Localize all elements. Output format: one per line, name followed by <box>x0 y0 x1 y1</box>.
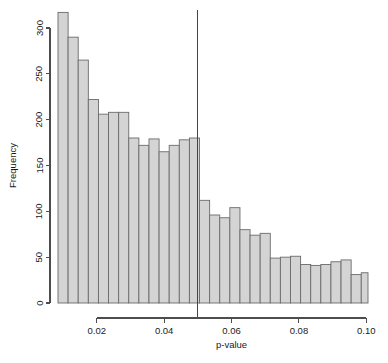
histogram-bar <box>139 145 149 303</box>
y-axis-tick-label: 200 <box>34 112 45 128</box>
histogram-bar <box>169 145 179 303</box>
histogram-bar <box>119 112 129 303</box>
x-axis-tick-label: 0.06 <box>222 325 241 336</box>
histogram-bar <box>291 256 301 303</box>
histogram-bar <box>210 215 220 303</box>
histogram-bar <box>270 258 280 303</box>
y-axis-tick-label: 250 <box>34 66 45 82</box>
histogram-bar <box>260 233 270 303</box>
histogram-bar <box>311 265 321 303</box>
histogram-bar <box>341 260 351 303</box>
histogram-bar <box>321 265 331 304</box>
histogram-bar <box>88 100 98 304</box>
x-axis-tick-label: 0.08 <box>290 325 309 336</box>
y-axis-tick-label: 100 <box>34 203 45 219</box>
histogram-bar <box>301 265 311 304</box>
x-axis-tick-label: 0.10 <box>357 325 376 336</box>
histogram-bar <box>351 275 361 303</box>
histogram-bar <box>230 208 240 303</box>
histogram-figure: 0501001502002503000.020.040.060.080.10p-… <box>0 0 388 363</box>
x-axis-tick-label: 0.04 <box>155 325 174 336</box>
histogram-bar <box>220 218 230 303</box>
x-axis-title: p-value <box>216 339 247 350</box>
histogram-bar <box>98 114 108 303</box>
y-axis-tick-label: 300 <box>34 20 45 36</box>
histogram-bar <box>179 140 189 303</box>
histogram-bar <box>240 230 250 303</box>
histogram-bar <box>200 200 210 303</box>
y-axis-tick-label: 50 <box>34 252 45 263</box>
histogram-bars-group <box>58 12 368 303</box>
histogram-bar <box>361 273 368 303</box>
histogram-bar <box>129 138 139 303</box>
histogram-bar <box>250 235 260 303</box>
histogram-bar <box>159 152 169 303</box>
x-axis-tick-label: 0.02 <box>88 325 107 336</box>
histogram-plot-svg: 0501001502002503000.020.040.060.080.10p-… <box>0 0 388 363</box>
histogram-bar <box>149 139 159 303</box>
histogram-bar <box>78 60 88 303</box>
histogram-bar <box>280 257 290 303</box>
histogram-bar <box>58 12 68 303</box>
histogram-bar <box>68 37 78 303</box>
y-axis-tick-label: 0 <box>34 300 45 305</box>
histogram-bar <box>109 112 119 303</box>
y-axis-title: Frequency <box>7 143 18 188</box>
histogram-bar <box>331 262 341 303</box>
y-axis-tick-label: 150 <box>34 158 45 174</box>
